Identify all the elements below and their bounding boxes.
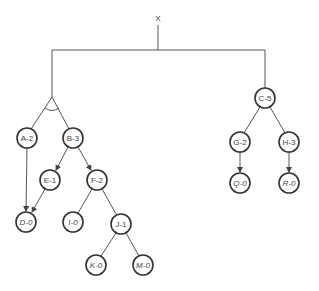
svg-text:D-0: D-0 <box>20 218 33 227</box>
svg-text:G-2: G-2 <box>233 138 247 147</box>
edge-j-m <box>126 233 139 256</box>
and-arc-icon <box>45 108 59 111</box>
edge-and-a <box>31 97 52 129</box>
svg-text:J-1: J-1 <box>115 220 127 229</box>
svg-text:K-0: K-0 <box>90 261 103 270</box>
edge-and-b <box>52 97 69 129</box>
svg-text:A-2: A-2 <box>21 134 34 143</box>
node-f: F-2 <box>87 170 107 190</box>
edge-c-g <box>244 107 260 133</box>
node-k: K-0 <box>86 255 106 275</box>
edge-f-j <box>102 189 116 214</box>
svg-text:C-5: C-5 <box>259 94 272 103</box>
node-d: D-0 <box>16 212 36 232</box>
node-i: I-0 <box>63 212 83 232</box>
node-b: B-3 <box>63 128 83 148</box>
edge-b-f <box>78 147 91 170</box>
node-m: M-0 <box>133 255 153 275</box>
node-g: G-2 <box>230 132 250 152</box>
edge-b-e <box>56 147 68 170</box>
edge-j-k <box>101 233 116 256</box>
svg-text:F-2: F-2 <box>91 176 104 185</box>
node-a: A-2 <box>17 128 37 148</box>
node-h: H-3 <box>279 132 299 152</box>
and-or-tree-diagram: X A-2 B-3 C-5 E-1 F-2 G-2 H-3 D-0 I-0 J-… <box>0 0 319 291</box>
svg-text:R-0: R-0 <box>283 179 296 188</box>
edge-a-d <box>26 148 27 211</box>
svg-text:Q-0: Q-0 <box>233 179 247 188</box>
edge-c-h <box>270 107 285 133</box>
root-label: X <box>155 14 161 23</box>
svg-text:M-0: M-0 <box>136 261 150 270</box>
node-j: J-1 <box>111 214 131 234</box>
svg-text:H-3: H-3 <box>283 138 296 147</box>
node-r: R-0 <box>279 173 299 193</box>
svg-text:I-0: I-0 <box>68 218 78 227</box>
edge-e-d <box>32 189 45 212</box>
edge-f-i <box>78 189 92 213</box>
svg-text:B-3: B-3 <box>67 134 80 143</box>
diagram-svg: X A-2 B-3 C-5 E-1 F-2 G-2 H-3 D-0 I-0 J-… <box>0 0 319 291</box>
svg-text:E-1: E-1 <box>44 176 57 185</box>
node-q: Q-0 <box>230 173 250 193</box>
node-c: C-5 <box>255 88 275 108</box>
node-e: E-1 <box>40 170 60 190</box>
